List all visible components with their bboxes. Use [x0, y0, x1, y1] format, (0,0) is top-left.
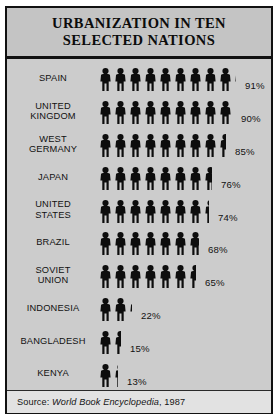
person-icon [144, 200, 157, 223]
percent-label: 65% [205, 277, 225, 288]
figure-group: 68% [99, 229, 271, 255]
chart-title: URBANIZATION IN TEN SELECTED NATIONS [7, 8, 271, 59]
person-icon [159, 68, 172, 91]
person-icon [189, 134, 202, 157]
person-icon-partial [129, 298, 132, 321]
person-icon [144, 232, 157, 255]
person-icon [159, 101, 172, 124]
country-label-line-2: GERMANY [7, 144, 99, 154]
person-icon-partial [114, 364, 118, 387]
country-label-line-1: SOVIET [36, 265, 71, 275]
person-icon-partial [114, 331, 121, 354]
infographic-poster: URBANIZATION IN TEN SELECTED NATIONS SPA… [5, 6, 273, 414]
person-icon [114, 265, 127, 288]
source-year: , 1987 [159, 397, 185, 407]
person-icon [99, 167, 112, 190]
person-icon [204, 134, 217, 157]
country-label: BANGLADESH [7, 336, 99, 346]
person-icon [174, 265, 187, 288]
figure-group: 85% [99, 131, 271, 157]
source-prefix: Source: [17, 397, 49, 407]
person-icon [159, 167, 172, 190]
person-icon [174, 200, 187, 223]
person-icon-partial [234, 68, 236, 91]
person-icon [144, 68, 157, 91]
person-icon [144, 101, 157, 124]
person-icon-partial [189, 265, 196, 288]
person-icon [144, 134, 157, 157]
person-icon [114, 298, 127, 321]
person-icon [99, 200, 112, 223]
person-icon [99, 101, 112, 124]
chart-row: INDONESIA22% [7, 292, 271, 325]
person-icon [129, 101, 142, 124]
chart-row: UNITEDKINGDOM90% [7, 95, 271, 128]
percent-label: 90% [241, 113, 261, 124]
person-icon [219, 68, 232, 91]
country-label: UNITEDSTATES [7, 199, 99, 220]
figure-group: 74% [99, 197, 271, 223]
person-icon [144, 265, 157, 288]
source-work: World Book Encyclopedia [52, 397, 159, 407]
person-icon [114, 101, 127, 124]
person-icon [114, 167, 127, 190]
percent-label: 76% [221, 179, 241, 190]
country-label-line-2: UNION [7, 275, 99, 285]
chart-row: KENYA13% [7, 357, 271, 390]
chart-row: BRAZIL68% [7, 226, 271, 259]
chart-row: WESTGERMANY85% [7, 128, 271, 161]
person-icon [174, 101, 187, 124]
person-icon-partial [219, 134, 226, 157]
person-icon [99, 298, 112, 321]
person-icon [99, 364, 112, 387]
figure-group: 91% [99, 65, 271, 91]
person-icon [99, 232, 112, 255]
chart-row: SPAIN91% [7, 62, 271, 95]
country-label: WESTGERMANY [7, 134, 99, 155]
country-label-line-2: STATES [7, 210, 99, 220]
country-label-line-1: JAPAN [38, 172, 68, 182]
person-icon [114, 68, 127, 91]
person-icon-partial [204, 167, 212, 190]
country-label-line-1: SPAIN [39, 73, 67, 83]
country-label: BRAZIL [7, 237, 99, 247]
percent-label: 85% [235, 146, 255, 157]
percent-label: 91% [245, 80, 265, 91]
title-line-2: SELECTED NATIONS [13, 32, 265, 49]
person-icon [219, 101, 232, 124]
person-icon [159, 232, 172, 255]
person-icon [99, 265, 112, 288]
chart-row: JAPAN76% [7, 160, 271, 193]
person-icon [129, 68, 142, 91]
person-icon [189, 68, 202, 91]
country-label-line-1: BRAZIL [36, 237, 69, 247]
person-icon [129, 134, 142, 157]
percent-label: 15% [130, 343, 150, 354]
person-icon [159, 265, 172, 288]
person-icon [174, 68, 187, 91]
title-line-1: URBANIZATION IN TEN [13, 15, 265, 32]
figure-group: 15% [99, 328, 271, 354]
person-icon-partial [204, 200, 209, 223]
country-label-line-1: INDONESIA [27, 303, 80, 313]
person-icon [99, 331, 112, 354]
percent-label: 74% [218, 212, 238, 223]
country-label-line-1: WEST [39, 134, 66, 144]
person-icon [174, 232, 187, 255]
figure-group: 13% [99, 361, 271, 387]
person-icon [204, 101, 217, 124]
person-icon [129, 200, 142, 223]
person-icon [159, 200, 172, 223]
country-label-line-1: UNITED [35, 199, 71, 209]
figure-group: 90% [99, 98, 271, 124]
source-note: Source: World Book Encyclopedia, 1987 [7, 390, 271, 413]
country-label-line-1: UNITED [35, 101, 71, 111]
person-icon [204, 68, 217, 91]
country-label: SPAIN [7, 73, 99, 83]
person-icon [99, 68, 112, 91]
figure-group: 22% [99, 295, 271, 321]
country-label: KENYA [7, 368, 99, 378]
percent-label: 68% [208, 244, 228, 255]
person-icon-partial [189, 232, 199, 255]
chart-row: UNITEDSTATES74% [7, 193, 271, 226]
